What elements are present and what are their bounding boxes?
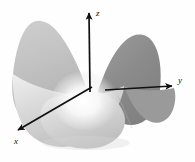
saddle-highlight bbox=[52, 70, 120, 130]
surface-figure: z y x bbox=[0, 0, 195, 162]
z-axis-label: z bbox=[95, 8, 100, 18]
y-axis-label: y bbox=[177, 75, 182, 85]
z-axis-line bbox=[89, 13, 90, 92]
surface-base-shadow bbox=[42, 136, 130, 150]
figure-canvas: z y x bbox=[0, 0, 195, 162]
saddle-surface bbox=[12, 21, 175, 150]
x-axis-label: x bbox=[13, 136, 18, 146]
